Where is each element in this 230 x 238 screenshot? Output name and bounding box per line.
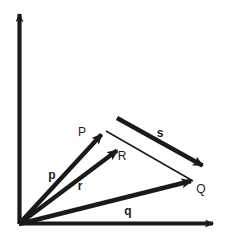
- vector-label-s: s: [157, 126, 164, 140]
- diagram-canvas: P R Q p r q s: [0, 0, 230, 238]
- vector-label-r: r: [78, 179, 83, 193]
- vector-label-p: p: [48, 168, 55, 182]
- figure-background: [0, 0, 230, 238]
- point-label-R: R: [118, 149, 127, 163]
- point-label-Q: Q: [196, 182, 205, 196]
- point-label-P: P: [78, 125, 86, 139]
- vector-diagram-figure: P R Q p r q s: [0, 0, 230, 238]
- vector-label-q: q: [124, 204, 131, 218]
